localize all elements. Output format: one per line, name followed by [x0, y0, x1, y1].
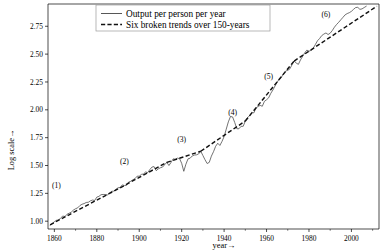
y-axis-title: Log scale→ — [7, 130, 16, 171]
annotation-label-5: (5) — [264, 72, 273, 81]
trend-segment-annotations: (1)(2)(3)(4)(5)(6) — [52, 10, 331, 189]
x-tick-label: 1860 — [47, 234, 62, 243]
annotation-label-1: (1) — [52, 181, 61, 190]
legend-label-six-broken-trends: Six broken trends over 150-years — [126, 20, 250, 30]
trend-segment-6 — [294, 6, 377, 61]
x-axis-title: year→ — [213, 241, 236, 250]
x-tick-label: 1920 — [174, 234, 189, 243]
y-tick-label: 1.50 — [30, 161, 43, 170]
legend-label-output-per-person: Output per person per year — [126, 9, 227, 19]
annotation-label-6: (6) — [322, 10, 331, 19]
annotation-label-4: (4) — [228, 108, 237, 117]
x-tick-label: 1900 — [132, 234, 147, 243]
trend-segment-5 — [245, 61, 294, 121]
series-six-broken-trends — [50, 6, 377, 225]
chart-legend: Output per person per year Six broken tr… — [96, 5, 270, 31]
annotation-label-3: (3) — [177, 135, 186, 144]
y-tick-label: 1.25 — [30, 189, 43, 198]
trend-segment-1 — [50, 188, 120, 225]
y-tick-label: 2.00 — [30, 105, 43, 114]
x-tick-label: 1960 — [259, 234, 274, 243]
y-tick-label: 2.50 — [30, 50, 43, 59]
output-per-person-line-chart: 1.001.251.501.752.002.252.502.75 1860188… — [0, 0, 390, 251]
x-tick-label: 1980 — [302, 234, 317, 243]
series-output-per-person — [50, 6, 366, 225]
x-axis-ticks: 18601880190019201940196019802000 — [47, 229, 373, 243]
y-tick-label: 2.25 — [30, 78, 43, 87]
y-tick-label: 1.00 — [30, 217, 43, 226]
y-tick-label: 2.75 — [30, 22, 43, 31]
y-tick-label: 1.75 — [30, 133, 43, 142]
annotation-label-2: (2) — [120, 157, 129, 166]
chart-figure: 1.001.251.501.752.002.252.502.75 1860188… — [0, 0, 390, 251]
x-tick-label: 2000 — [344, 234, 359, 243]
x-tick-label: 1880 — [89, 234, 104, 243]
trend-segment-4 — [201, 121, 246, 151]
y-axis-ticks: 1.001.251.501.752.002.252.502.75 — [30, 22, 48, 226]
